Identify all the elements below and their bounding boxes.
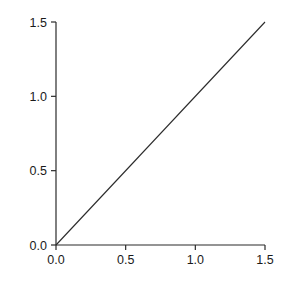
y-tick-label: 1.5: [30, 16, 47, 30]
reference-line-group: [56, 22, 265, 245]
x-tick-label: 0.0: [47, 253, 64, 267]
identity-reference-line: [56, 22, 265, 245]
y-tick-label: 0.0: [30, 239, 47, 253]
x-tick-label: 0.5: [117, 253, 134, 267]
y-tick-label: 1.0: [30, 90, 47, 104]
tick-labels-group: 0.00.51.01.50.00.51.01.5: [30, 16, 274, 268]
x-tick-label: 1.5: [256, 253, 273, 267]
y-tick-label: 0.5: [30, 164, 47, 178]
x-tick-label: 1.0: [187, 253, 204, 267]
scatter-plot-figure: 0.00.51.01.50.00.51.01.5: [0, 0, 289, 294]
plot-canvas: 0.00.51.01.50.00.51.01.5: [0, 0, 289, 294]
